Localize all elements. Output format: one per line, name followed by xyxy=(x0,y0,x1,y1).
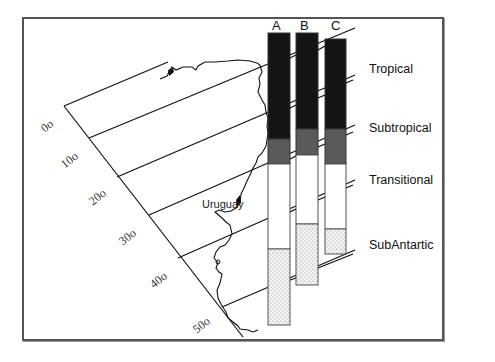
zone-label-subantartic: SubAntartic xyxy=(369,238,434,252)
place-label-uruguay: Uruguay xyxy=(202,198,244,210)
column-label-c: C xyxy=(331,18,340,33)
zone-label-subtropical: Subtropical xyxy=(369,121,432,135)
zone-label-tropical: Tropical xyxy=(369,62,413,76)
column-label-b: B xyxy=(300,18,309,33)
column-a xyxy=(268,33,290,325)
column-b xyxy=(296,33,318,285)
latitude-axis xyxy=(64,106,243,337)
coastline xyxy=(160,60,268,332)
column-c xyxy=(325,39,346,254)
zone-label-transitional: Transitional xyxy=(369,173,433,187)
column-label-a: A xyxy=(272,18,281,33)
